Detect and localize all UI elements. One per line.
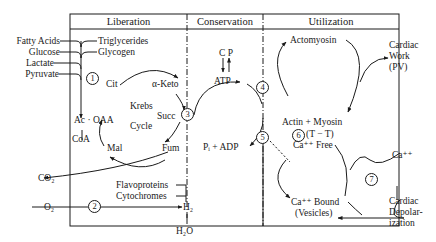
label-depol-2: Depolar- [389,207,423,217]
step-4-marker: 4 [256,81,269,94]
label-t-t: (T − T) [306,129,334,139]
step-1-marker: 1 [86,72,99,85]
label-succ: Succ [157,111,175,121]
label-fum: Fum [162,143,179,153]
label-pyruvate: Pyruvate [0,69,59,79]
label-actin-myosin: Actin + Myosin [282,117,342,127]
label-h2o: H₂O [176,226,193,236]
label-o2: O₂ [44,202,54,212]
label-lactate: Lactate [0,58,54,68]
label-h2: H₂ [183,202,193,212]
label-ca-external: Ca⁺⁺ [392,150,413,160]
label-cardiac-work-1: Cardiac [389,40,419,50]
label-atp: ATP [214,76,231,86]
label-ca-free: Ca⁺⁺ Free [293,140,333,150]
header-utilization: Utilization [263,16,399,28]
label-cit: Cit [106,79,118,89]
step-3-marker: 3 [181,108,194,121]
label-actomyosin: Actomyosin [290,35,336,45]
label-cytochromes: Cytochromes [116,191,167,201]
step-7-marker: 7 [365,173,378,186]
label-fatty-acids: Fatty Acids [0,36,60,46]
label-alpha-keto: α-Keto [152,79,179,89]
label-triglycerides: Triglycerides [98,36,148,46]
label-krebs: Krebs [130,101,153,111]
label-ac-oaa: Ac · OAA [74,115,114,125]
diagram-lines [0,0,436,242]
label-glucose: Glucose [0,47,60,57]
label-cp: C P [219,48,233,58]
step-5-marker: 5 [256,131,269,144]
label-pi-adp: Pᵢ + ADP [203,142,238,152]
label-cardiac-work-3: (PV) [389,62,407,72]
header-conservation: Conservation [187,16,263,28]
label-co2: CO₂ [38,173,55,183]
label-flavoproteins: Flavoproteins [116,180,168,190]
label-cardiac-work-2: Work [389,51,410,61]
label-depol-3: ization [389,218,415,228]
label-glycogen: Glycogen [98,47,135,57]
label-ca-bound: Ca⁺⁺ Bound [291,197,339,207]
label-depol-1: Cardiac [389,196,419,206]
step-2-marker: 2 [88,200,101,213]
header-liberation: Liberation [70,16,187,28]
label-cycle: Cycle [130,121,152,131]
label-coa: CoA [72,134,90,144]
label-mal: Mal [107,143,122,153]
label-vesicles: (Vesicles) [295,208,332,218]
